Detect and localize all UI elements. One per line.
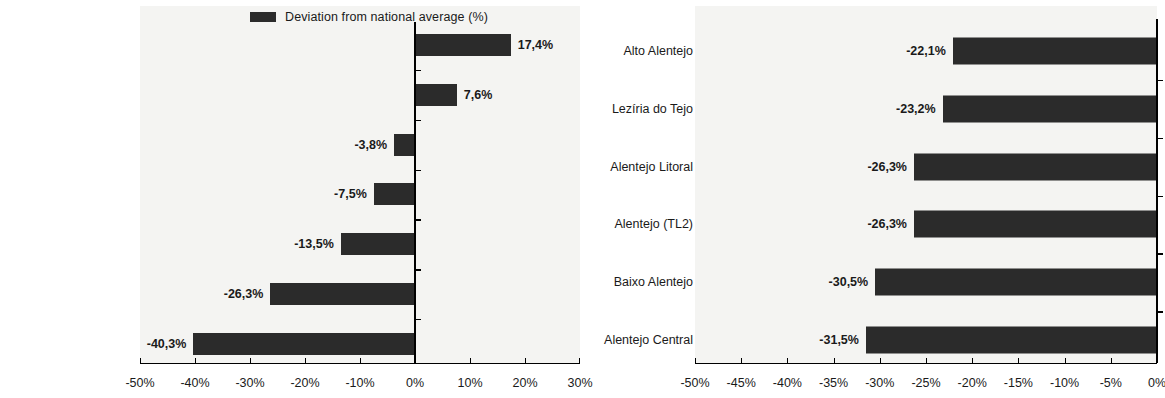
- chart-legend-left: Deviation from national average (%): [250, 10, 488, 24]
- bar: [875, 269, 1157, 296]
- x-axis-tick-label: -10%: [345, 376, 374, 390]
- bar-value-label: -30,5%: [780, 275, 868, 289]
- x-axis-tick: [926, 358, 927, 363]
- bar-value-label: 7,6%: [464, 88, 493, 102]
- category-label: Lezíria do Tejo: [508, 102, 693, 116]
- x-axis-line: [140, 363, 580, 364]
- bar-value-label: -13,5%: [246, 237, 334, 251]
- bar-value-label: -26,3%: [819, 160, 907, 174]
- x-axis-tick-label: -10%: [1050, 376, 1079, 390]
- x-axis-tick: [250, 358, 251, 363]
- x-axis-tick-label: -20%: [290, 376, 319, 390]
- category-axis-tick: [1158, 80, 1163, 82]
- bar: [415, 84, 457, 106]
- bar: [914, 211, 1157, 238]
- x-axis-tick-label: -45%: [727, 376, 756, 390]
- legend-label: Deviation from national average (%): [285, 10, 488, 24]
- bar: [415, 34, 511, 56]
- bar-value-label: -3,8%: [299, 138, 387, 152]
- x-axis-tick-label: -25%: [911, 376, 940, 390]
- x-axis-tick-label: -20%: [958, 376, 987, 390]
- category-label: Alentejo Litoral: [508, 160, 693, 174]
- x-axis-tick: [834, 358, 835, 363]
- bar: [914, 153, 1157, 180]
- bar: [866, 327, 1157, 354]
- x-axis-tick: [1111, 358, 1112, 363]
- bar-value-label: -22,1%: [858, 44, 946, 58]
- category-label: Alto Alentejo: [508, 44, 693, 58]
- x-axis-tick-label: 0%: [406, 376, 424, 390]
- x-axis-tick: [880, 358, 881, 363]
- bar: [193, 333, 415, 355]
- x-axis-tick: [305, 358, 306, 363]
- x-axis-line: [695, 363, 1157, 364]
- category-label: Alentejo (TL2): [508, 217, 693, 231]
- category-axis-tick: [1158, 311, 1163, 313]
- bar-value-label: -23,2%: [848, 102, 936, 116]
- bar-value-label: -26,3%: [175, 287, 263, 301]
- x-axis-tick-label: -50%: [680, 376, 709, 390]
- x-axis-tick-label: -5%: [1100, 376, 1122, 390]
- x-axis-tick-label: -30%: [235, 376, 264, 390]
- category-axis-tick: [1158, 196, 1163, 198]
- x-axis-tick: [470, 358, 471, 363]
- x-axis-tick-label: -15%: [1004, 376, 1033, 390]
- category-axis-tick: [416, 219, 421, 221]
- category-axis-tick: [416, 319, 421, 321]
- x-axis-tick-label: 0%: [1148, 376, 1165, 390]
- bar: [943, 95, 1157, 122]
- x-axis-tick-label: 10%: [457, 376, 482, 390]
- bar: [394, 134, 415, 156]
- category-axis-tick: [416, 170, 421, 172]
- bar-value-label: -7,5%: [279, 187, 367, 201]
- x-axis-tick: [972, 358, 973, 363]
- zero-axis-line: [414, 22, 416, 363]
- axis-end-cap: [140, 358, 141, 363]
- category-axis-tick: [416, 269, 421, 271]
- bar: [374, 183, 415, 205]
- category-axis-tick: [1158, 253, 1163, 255]
- category-label: Baixo Alentejo: [508, 275, 693, 289]
- x-axis-tick-label: -40%: [773, 376, 802, 390]
- plot-area-background: [140, 6, 580, 363]
- category-label: Alentejo Central: [508, 333, 693, 347]
- x-axis-tick: [787, 358, 788, 363]
- bar-value-label: -31,5%: [771, 333, 859, 347]
- bar: [270, 283, 415, 305]
- axis-end-cap: [695, 358, 696, 363]
- bar: [341, 233, 415, 255]
- category-axis-tick: [416, 70, 421, 72]
- x-axis-tick: [1065, 358, 1066, 363]
- category-axis-tick: [1158, 138, 1163, 140]
- bar-value-label: -40,3%: [98, 337, 186, 351]
- x-axis-tick: [525, 358, 526, 363]
- x-axis-tick-label: 20%: [512, 376, 537, 390]
- x-axis-tick: [195, 358, 196, 363]
- category-axis-tick: [416, 120, 421, 122]
- x-axis-tick: [1018, 358, 1019, 363]
- x-axis-tick: [360, 358, 361, 363]
- x-axis-tick: [741, 358, 742, 363]
- chart-panel-right: Deviation from national average (%) Alto…: [580, 0, 1165, 398]
- legend-swatch-icon: [250, 12, 276, 22]
- x-axis-tick-label: -40%: [180, 376, 209, 390]
- bar: [953, 38, 1157, 65]
- x-axis-tick-label: -30%: [865, 376, 894, 390]
- x-axis-tick-label: -50%: [125, 376, 154, 390]
- x-axis-tick-label: -35%: [819, 376, 848, 390]
- bar-value-label: -26,3%: [819, 217, 907, 231]
